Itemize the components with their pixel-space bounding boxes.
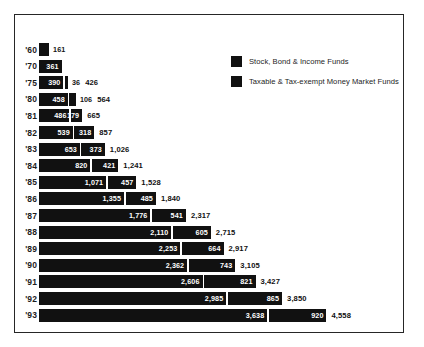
bar-value-label: 36 xyxy=(72,78,80,87)
chart-frame: '60161'70361'7539036426'80458106564'8148… xyxy=(14,14,404,333)
bar-segment-stock-bond-income: 539 xyxy=(39,126,73,139)
bar-segment-money-market: 821 xyxy=(204,275,256,288)
year-axis-label: '93 xyxy=(15,310,41,320)
chart-row: '70361 xyxy=(15,60,62,73)
bar-segment-stock-bond-income: 820 xyxy=(39,159,90,172)
chart-row: '892,2536642,917 xyxy=(15,242,248,255)
year-axis-label: '90 xyxy=(15,260,41,270)
year-axis-label: '60 xyxy=(15,45,41,55)
legend-label: Taxable & Tax-exempt Money Market Funds xyxy=(249,77,399,86)
bar-value-label: 3,638 xyxy=(246,311,268,320)
chart-row: '861,3554851,840 xyxy=(15,192,180,205)
bar-value-label: 2,606 xyxy=(181,277,203,286)
chart-row: '851,0714571,528 xyxy=(15,176,161,189)
bar-group: 539318857 xyxy=(39,126,112,139)
bar-segment-stock-bond-income: 1,071 xyxy=(39,176,106,189)
bar-value-label: 1,071 xyxy=(85,178,107,187)
chart-row: '80458106564 xyxy=(15,93,110,106)
bar-value-label: 743 xyxy=(220,261,235,270)
bar-value-label: 821 xyxy=(240,277,255,286)
bar-group: 1,0714571,528 xyxy=(39,176,161,189)
bar-segment-money-market: 743 xyxy=(189,259,236,272)
bar-value-label: 161 xyxy=(49,45,65,54)
bar-segment-stock-bond-income xyxy=(39,43,49,56)
year-axis-label: '89 xyxy=(15,244,41,254)
bar-group: 2,6068213,427 xyxy=(39,275,280,288)
bar-total-label: 1,026 xyxy=(110,145,130,154)
bar-value-label: 541 xyxy=(171,211,186,220)
bar-group: 2,9858653,850 xyxy=(39,292,307,305)
bar-total-label: 857 xyxy=(99,128,112,137)
bar-value-label: 653 xyxy=(65,145,80,154)
legend-item-stock-bond-income: Stock, Bond & Income Funds xyxy=(231,56,399,67)
chart-row: '81486179665 xyxy=(15,109,100,122)
bar-value-label: 2,253 xyxy=(159,244,181,253)
bar-group: 3,6389204,558 xyxy=(39,309,351,322)
bar-group: 361 xyxy=(39,60,62,73)
bar-segment-money-market: 541 xyxy=(152,209,186,222)
bar-value-label: 106 xyxy=(80,95,92,104)
bar-value-label: 485 xyxy=(141,194,156,203)
bar-segment-money-market: 318 xyxy=(74,126,94,139)
bar-total-label: 1,528 xyxy=(141,178,161,187)
year-axis-label: '70 xyxy=(15,61,41,71)
bar-value-label: 318 xyxy=(79,128,94,137)
bar-segment-money-market: 421 xyxy=(92,159,118,172)
bar-segment-stock-bond-income: 1,355 xyxy=(39,192,124,205)
bar-segment-money-market: 485 xyxy=(126,192,156,205)
bar-value-label: 820 xyxy=(75,161,90,170)
bar-segment-stock-bond-income: 2,985 xyxy=(39,292,226,305)
year-axis-label: '87 xyxy=(15,211,41,221)
bar-segment-money-market: 664 xyxy=(182,242,224,255)
bar-total-label: 3,850 xyxy=(287,294,307,303)
year-axis-label: '84 xyxy=(15,161,41,171)
chart-row: '902,3627433,105 xyxy=(15,259,260,272)
bar-group: 2,2536642,917 xyxy=(39,242,248,255)
year-axis-label: '75 xyxy=(15,78,41,88)
bar-value-label: 865 xyxy=(267,294,282,303)
chart-row: '871,7765412,317 xyxy=(15,209,210,222)
bar-group: 1,3554851,840 xyxy=(39,192,180,205)
legend-item-money-market: Taxable & Tax-exempt Money Market Funds xyxy=(231,76,399,87)
bar-value-label: 373 xyxy=(90,145,105,154)
bar-total-label: 564 xyxy=(97,95,110,104)
year-axis-label: '82 xyxy=(15,128,41,138)
bar-group: 1,7765412,317 xyxy=(39,209,210,222)
bar-segment-stock-bond-income: 653 xyxy=(39,143,80,156)
year-axis-label: '83 xyxy=(15,144,41,154)
legend-swatch-icon xyxy=(231,76,242,87)
bar-segment-money-market: 920 xyxy=(269,309,327,322)
bar-value-label: 421 xyxy=(103,161,118,170)
chart-row: '848204211,241 xyxy=(15,159,143,172)
chart-row: '933,6389204,558 xyxy=(15,309,351,322)
bar-value-label: 179 xyxy=(67,111,82,120)
bar-total-label: 2,715 xyxy=(216,228,236,237)
bar-group: 486179665 xyxy=(39,109,100,122)
bar-segment-stock-bond-income: 458 xyxy=(39,93,68,106)
bar-segment-stock-bond-income: 2,362 xyxy=(39,259,187,272)
legend-swatch-icon xyxy=(231,56,242,67)
bar-group: 6533731,026 xyxy=(39,143,129,156)
bar-total-label: 4,558 xyxy=(331,311,351,320)
year-axis-label: '80 xyxy=(15,94,41,104)
bar-segment-stock-bond-income: 2,110 xyxy=(39,226,171,239)
bar-total-label: 3,427 xyxy=(261,277,281,286)
bar-group: 8204211,241 xyxy=(39,159,143,172)
bar-total-label: 1,840 xyxy=(161,194,181,203)
year-axis-label: '92 xyxy=(15,294,41,304)
bar-value-label: 2,362 xyxy=(166,261,188,270)
year-axis-label: '85 xyxy=(15,177,41,187)
year-axis-label: '91 xyxy=(15,277,41,287)
year-axis-label: '88 xyxy=(15,227,41,237)
chart-row: '7539036426 xyxy=(15,76,98,89)
bar-value-label: 1,776 xyxy=(129,211,151,220)
bar-segment-money-market: 605 xyxy=(173,226,211,239)
bar-value-label: 2,985 xyxy=(205,294,227,303)
bar-segment-stock-bond-income: 361 xyxy=(39,60,62,73)
bar-value-label: 458 xyxy=(52,95,67,104)
bar-segment-stock-bond-income: 2,606 xyxy=(39,275,203,288)
chart-row: '60161 xyxy=(15,43,65,56)
bar-segment-stock-bond-income: 3,638 xyxy=(39,309,267,322)
year-axis-label: '86 xyxy=(15,194,41,204)
bar-value-label: 539 xyxy=(58,128,73,137)
